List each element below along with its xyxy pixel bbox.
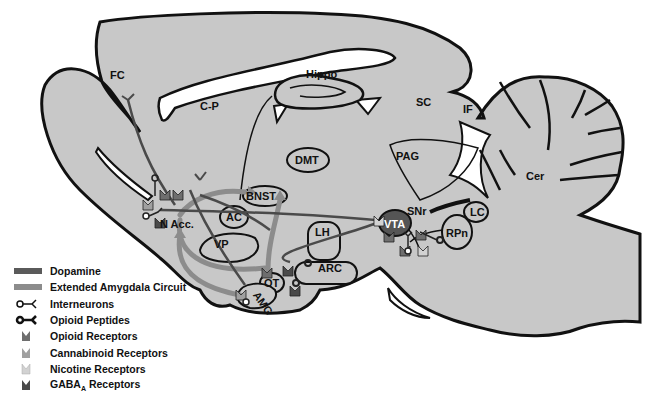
- legend-label: Nicotine Receptors: [50, 363, 146, 375]
- legend-item-interneurons: Interneurons: [14, 296, 224, 312]
- label-ac: AC: [226, 211, 242, 223]
- label-vta: VTA: [384, 218, 405, 230]
- legend: Dopamine Extended Amygdala Circuit Inter…: [14, 263, 224, 393]
- legend-label: Interneurons: [50, 298, 114, 310]
- opioid-peptide-icon: [14, 314, 44, 326]
- label-sc: SC: [416, 96, 431, 108]
- legend-item-opioid-peptides: Opioid Peptides: [14, 312, 224, 328]
- legend-label: GABAA Receptors: [50, 378, 140, 392]
- legend-label: Cannabinoid Receptors: [50, 347, 168, 359]
- label-cer: Cer: [526, 170, 545, 182]
- legend-label: Dopamine: [50, 265, 101, 277]
- label-dmt: DMT: [295, 154, 319, 166]
- legend-item-cannabinoid-receptors: Cannabinoid Receptors: [14, 344, 224, 360]
- label-fc: FC: [110, 69, 125, 81]
- nicotine-receptor-icon: [14, 363, 44, 375]
- label-vp: VP: [214, 238, 229, 250]
- legend-item-nicotine-receptors: Nicotine Receptors: [14, 361, 224, 377]
- label-nacc: N Acc.: [160, 218, 194, 230]
- legend-label: Extended Amygdala Circuit: [50, 281, 186, 293]
- label-bnst: BNST: [246, 190, 276, 202]
- extended-amygdala-line-icon: [14, 284, 44, 290]
- label-hippo: Hippo: [306, 68, 337, 80]
- label-if: IF: [463, 103, 473, 115]
- gaba-a-receptor-icon: [14, 379, 44, 391]
- legend-label: Opioid Receptors: [50, 330, 138, 342]
- legend-item-extended-amygdala: Extended Amygdala Circuit: [14, 279, 224, 295]
- label-lh: LH: [315, 226, 330, 238]
- legend-item-gaba-a-receptors: GABAA Receptors: [14, 377, 224, 393]
- label-arc: ARC: [318, 262, 342, 274]
- label-pag: PAG: [396, 150, 419, 162]
- dopamine-line-icon: [14, 268, 44, 274]
- label-cp: C-P: [200, 100, 219, 112]
- interneuron-icon: [14, 298, 44, 310]
- legend-label: Opioid Peptides: [50, 314, 130, 326]
- legend-item-opioid-receptors: Opioid Receptors: [14, 328, 224, 344]
- label-rpn: RPn: [446, 227, 468, 239]
- label-lc: LC: [470, 206, 485, 218]
- legend-item-dopamine: Dopamine: [14, 263, 224, 279]
- label-snr: SNr: [407, 205, 427, 217]
- cannabinoid-receptor-icon: [14, 347, 44, 359]
- label-ot: OT: [264, 277, 280, 289]
- opioid-receptor-icon: [14, 330, 44, 342]
